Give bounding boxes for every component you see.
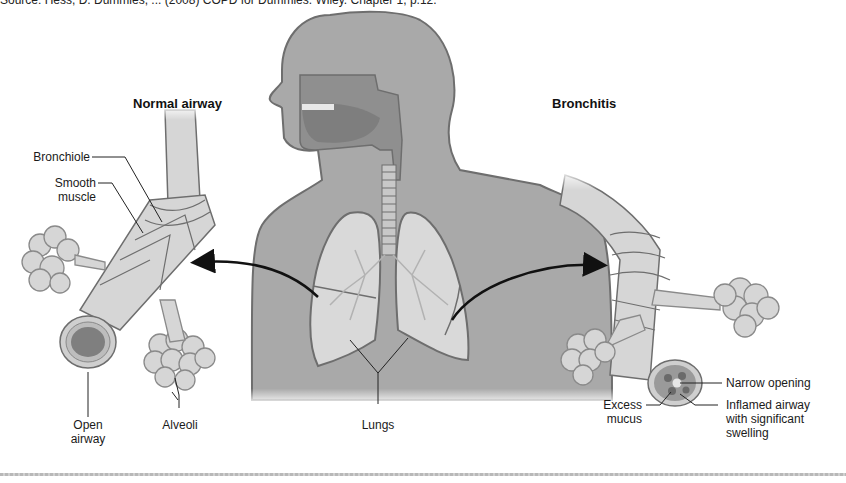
bronchitis-title: Bronchitis [552,96,616,111]
normal-airway-title: Normal airway [133,96,222,111]
label-smooth-muscle: Smooth muscle [10,176,96,204]
bottom-divider [0,473,846,476]
respiratory-diagram [0,0,846,483]
label-lungs: Lungs [348,418,408,432]
label-narrow-opening: Narrow opening [726,376,846,390]
normal-airway-illustration [22,105,215,390]
label-bronchiole: Bronchiole [10,150,90,164]
open-airway-cross-section [60,316,116,368]
label-inflamed-airway: Inflamed airway with significant swellin… [726,398,846,440]
trachea [382,165,396,255]
label-alveoli: Alveoli [150,418,210,432]
label-open-airway: Open airway [58,418,118,446]
label-excess-mucus: Excess mucus [570,398,642,426]
